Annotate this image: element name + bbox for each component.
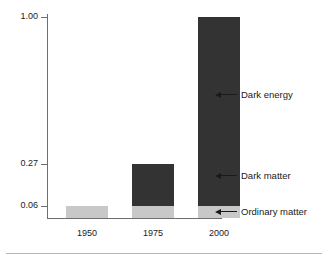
y-axis-line [47,14,48,219]
left-arrow-icon [215,208,237,215]
left-arrow-icon [215,91,237,98]
y-tick-label-2: 0.27 [0,159,38,168]
x-axis-line [47,218,222,219]
bar-1975-dark [132,164,174,206]
annotation-dark-energy: Dark energy [215,89,293,100]
bar-1975-ordinary-matter [132,206,174,218]
x-tick-label-2000: 2000 [189,228,249,238]
x-tick-label-1950: 1950 [57,228,117,238]
annotation-dark-energy-label: Dark energy [241,89,293,100]
bar-1950-ordinary-matter [66,206,108,218]
y-tick-label-1: 1.00 [0,12,38,21]
y-tick-label-3: 0.06 [0,201,38,210]
annotation-dark-matter-label: Dark matter [241,170,291,181]
y-tick-mark-3 [41,206,47,207]
y-tick-mark-2 [41,164,47,165]
annotation-dark-matter: Dark matter [215,170,291,181]
annotation-ordinary-matter: Ordinary matter [215,206,307,217]
cosmic-composition-bar-chart: 1.00 0.27 0.06 1950 1975 2000 Dark energ… [0,0,328,261]
left-arrow-icon [215,172,237,179]
annotation-ordinary-matter-label: Ordinary matter [241,206,307,217]
bottom-divider [6,253,322,254]
x-tick-label-1975: 1975 [123,228,183,238]
y-tick-mark-1 [41,17,47,18]
